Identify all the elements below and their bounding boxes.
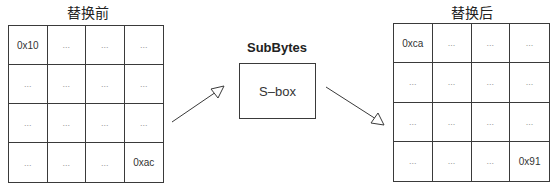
after-cell-2-1: ... [433,103,472,142]
after-cell-0-0: 0xca [394,24,433,63]
after-cell-3-2: ... [472,142,511,181]
after-cell-0-1: ... [433,24,472,63]
after-cell-3-3: 0x91 [510,142,549,181]
after-title: 替换后 [432,2,512,22]
after-cell-2-3: ... [510,103,549,142]
arrow-icon-out [326,87,384,125]
after-cell-2-2: ... [472,103,511,142]
after-cell-0-3: ... [510,24,549,63]
after-cell-1-3: ... [510,63,549,102]
after-cell-0-2: ... [472,24,511,63]
arrow-icon-in [172,86,224,122]
after-cell-2-0: ... [394,103,433,142]
after-cell-3-1: ... [433,142,472,181]
after-state-grid: 0xca ... ... ... ... ... ... ... ... ...… [393,23,550,182]
after-cell-3-0: ... [394,142,433,181]
after-cell-1-2: ... [472,63,511,102]
after-cell-1-0: ... [394,63,433,102]
after-cell-1-1: ... [433,63,472,102]
